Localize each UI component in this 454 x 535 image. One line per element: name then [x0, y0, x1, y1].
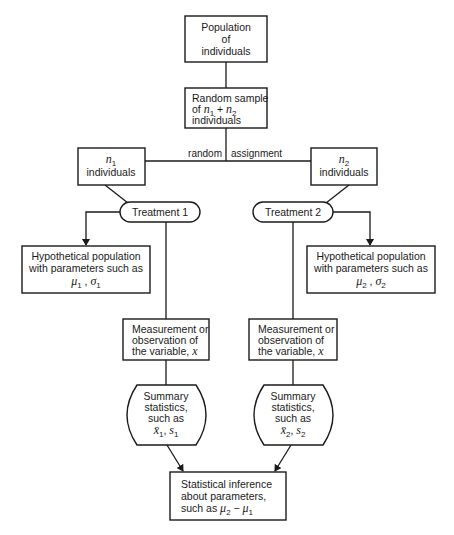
- treatment1-label: Treatment 1: [132, 206, 188, 218]
- random-sample-box: Random sample of n1 + n2 individuals: [185, 88, 269, 128]
- hyp-pop2-line-2: with parameters such as: [313, 262, 428, 274]
- measure2-box: Measurement or observation of the variab…: [249, 319, 337, 360]
- connector-group2-treatment2: [326, 185, 349, 203]
- group1-box: n1 individuals: [78, 148, 145, 185]
- population-line-1: Population: [201, 21, 251, 33]
- treatment2-pill: Treatment 2: [253, 202, 333, 222]
- connector-group1-treatment1: [105, 185, 128, 203]
- hyp-pop1-line-1: Hypothetical population: [31, 250, 140, 262]
- inference-line-1: Statistical inference: [181, 478, 272, 490]
- flowchart: Population of individuals Random sample …: [0, 0, 454, 535]
- hyp-pop1-box: Hypothetical population with parameters …: [22, 246, 150, 293]
- arrow-summary2-inference: [275, 445, 291, 471]
- treatment2-label: Treatment 2: [265, 206, 321, 218]
- summary2-shape: Summary statistics, such as x̄2, s2: [254, 385, 333, 445]
- treatment1-pill: Treatment 1: [120, 202, 200, 222]
- measure2-line-3: the variable, x: [258, 344, 324, 358]
- group2-box: n2 individuals: [311, 148, 377, 185]
- summary1-shape: Summary statistics, such as x̄1, s1: [127, 385, 206, 445]
- population-box: Population of individuals: [185, 16, 267, 62]
- arrow-treatment2-hyp-pop2: [333, 212, 370, 245]
- arrow-summary1-inference: [167, 445, 183, 471]
- random-sample-line-3: individuals: [192, 114, 241, 126]
- arrow-treatment1-hyp-pop1: [86, 212, 120, 245]
- measure1-line-3: the variable, x: [132, 344, 198, 358]
- hyp-pop2-line-1: Hypothetical population: [316, 250, 425, 262]
- group1-label: individuals: [86, 166, 135, 178]
- inference-box: Statistical inference about parameters, …: [170, 472, 286, 520]
- assignment-label-left: random: [188, 148, 222, 159]
- assignment-label-right: assignment: [231, 148, 282, 159]
- population-line-3: individuals: [201, 45, 250, 57]
- group2-label: individuals: [319, 166, 368, 178]
- measure1-box: Measurement or observation of the variab…: [123, 319, 209, 360]
- hyp-pop2-box: Hypothetical population with parameters …: [307, 246, 435, 293]
- population-line-2: of: [222, 33, 231, 45]
- hyp-pop1-line-2: with parameters such as: [28, 262, 143, 274]
